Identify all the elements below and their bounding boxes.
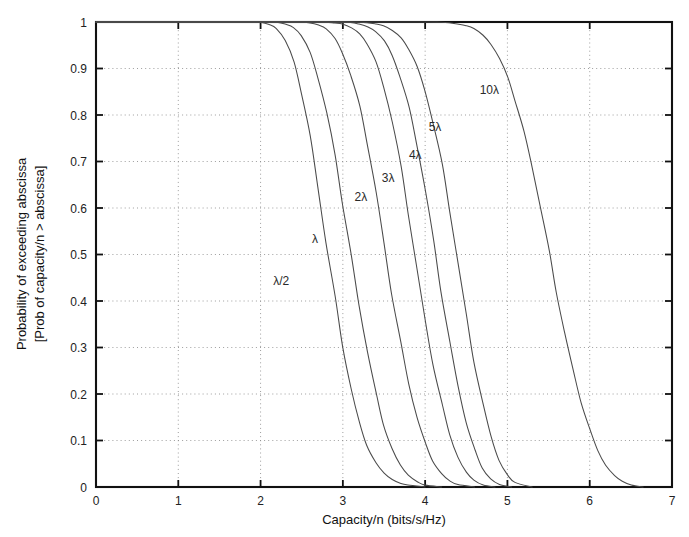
- y-tick-label: 0.7: [70, 155, 87, 169]
- curve-label-4lambda: 4λ: [409, 148, 422, 162]
- y-tick-label: 0.3: [70, 341, 87, 355]
- x-tick-label: 0: [93, 494, 100, 508]
- x-tick-label: 5: [504, 494, 511, 508]
- y-axis-title-line2: [Prob of capacity/n > abscissa]: [32, 166, 47, 343]
- y-tick-label: 0.4: [70, 295, 87, 309]
- x-tick-label: 6: [586, 494, 593, 508]
- y-tick-label: 0.6: [70, 202, 87, 216]
- x-tick-label: 4: [422, 494, 429, 508]
- chart-canvas: λ/2λ2λ3λ4λ5λ10λ 01234567 00.10.20.30.40.…: [0, 0, 689, 537]
- curve-label-10lambda: 10λ: [480, 83, 499, 97]
- y-tick-label: 1: [80, 16, 87, 30]
- curve-label-5lambda: 5λ: [429, 120, 442, 134]
- x-axis-tick-labels: 01234567: [93, 494, 676, 508]
- x-tick-label: 1: [175, 494, 182, 508]
- y-tick-label: 0.2: [70, 388, 87, 402]
- curve-label-3lambda: 3λ: [382, 171, 395, 185]
- x-axis-title: Capacity/n (bits/s/Hz): [322, 512, 446, 527]
- y-tick-label: 0.5: [70, 248, 87, 262]
- x-tick-label: 7: [669, 494, 676, 508]
- curve-label-lambda: λ: [312, 232, 318, 246]
- y-tick-label: 0: [80, 481, 87, 495]
- y-axis-title-line1: Probability of exceeding abscissa: [14, 157, 29, 350]
- y-tick-label: 0.9: [70, 62, 87, 76]
- x-tick-label: 3: [340, 494, 347, 508]
- x-tick-label: 2: [257, 494, 264, 508]
- curve-label-2lambda: 2λ: [355, 190, 368, 204]
- curve-label-lambda-over-2: λ/2: [273, 274, 289, 288]
- y-axis-tick-labels: 00.10.20.30.40.50.60.70.80.91: [70, 16, 87, 495]
- y-tick-label: 0.1: [70, 434, 87, 448]
- y-tick-label: 0.8: [70, 109, 87, 123]
- chart-figure: λ/2λ2λ3λ4λ5λ10λ 01234567 00.10.20.30.40.…: [0, 0, 689, 537]
